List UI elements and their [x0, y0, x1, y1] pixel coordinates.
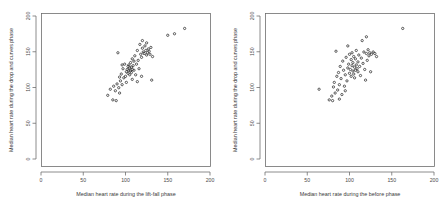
data-point	[364, 79, 366, 81]
data-point	[361, 39, 363, 41]
data-point	[125, 81, 127, 83]
data-point	[167, 34, 169, 36]
data-point	[120, 73, 122, 75]
data-point	[173, 33, 175, 35]
y-axis-right: 050100150200	[249, 12, 260, 161]
y-tick-label: 0	[25, 157, 31, 160]
data-point	[328, 99, 330, 101]
x-tick-label: 100	[121, 177, 130, 183]
y-tick-label: 200	[249, 12, 255, 21]
y-axis-ticks: 050100150200	[249, 12, 260, 161]
data-point	[151, 55, 153, 57]
y-tick-label: 100	[25, 83, 31, 92]
y-tick-label: 100	[249, 83, 255, 92]
data-point	[136, 80, 138, 82]
data-point	[138, 68, 140, 70]
data-point	[143, 52, 145, 54]
data-point	[356, 68, 358, 70]
data-point	[353, 66, 355, 68]
data-point	[351, 65, 353, 67]
data-point	[133, 60, 135, 62]
data-point	[338, 98, 340, 100]
x-axis-right: 050100150200	[264, 172, 439, 183]
data-point	[345, 56, 347, 58]
data-point	[140, 75, 142, 77]
data-point	[353, 55, 355, 57]
x-axis-title: Median heart rate during the lift-fall p…	[76, 191, 176, 197]
x-tick-label: 100	[345, 177, 354, 183]
data-point	[353, 73, 355, 75]
data-point	[354, 58, 356, 60]
data-point	[334, 92, 336, 94]
data-point	[129, 74, 131, 76]
data-point	[368, 55, 370, 57]
data-point-group	[318, 27, 404, 102]
data-point	[340, 77, 342, 79]
plot-frame	[42, 14, 211, 167]
x-tick-label: 0	[264, 177, 267, 183]
two-panel-scatter-figure: 050100150200 050100150200 Median heart r…	[0, 0, 447, 211]
data-point	[132, 65, 134, 67]
data-point	[140, 53, 142, 55]
data-point	[113, 85, 115, 87]
data-point	[135, 63, 137, 65]
data-point	[347, 45, 349, 47]
data-point	[145, 42, 147, 44]
data-point	[375, 55, 377, 57]
data-point	[343, 85, 345, 87]
scatter-plot-left: 050100150200 050100150200 Median heart r…	[0, 0, 223, 211]
data-point	[346, 80, 348, 82]
data-point	[402, 27, 404, 29]
data-point	[184, 27, 186, 29]
data-point	[374, 52, 376, 54]
x-axis-left: 050100150200	[40, 172, 215, 183]
data-point	[365, 36, 367, 38]
data-point	[107, 94, 109, 96]
x-tick-label: 150	[163, 177, 172, 183]
data-point	[128, 64, 130, 66]
data-point	[140, 56, 142, 58]
data-point	[112, 99, 114, 101]
data-point	[363, 51, 365, 53]
scatter-panel-left: 050100150200 050100150200 Median heart r…	[0, 0, 223, 211]
data-point	[109, 88, 111, 90]
y-axis-left: 050100150200	[25, 12, 36, 161]
data-point	[369, 71, 371, 73]
data-point	[355, 64, 357, 66]
data-point	[332, 86, 334, 88]
data-point	[358, 65, 360, 67]
data-point	[358, 54, 360, 56]
y-tick-label: 200	[25, 12, 31, 21]
data-point	[116, 83, 118, 85]
y-tick-label: 50	[25, 120, 31, 126]
data-point	[137, 59, 139, 61]
data-point	[119, 80, 121, 82]
y-axis-ticks: 050100150200	[25, 12, 36, 161]
data-point	[359, 74, 361, 76]
data-point	[148, 50, 150, 52]
x-axis-title: Median heart rate during the before phas…	[300, 191, 401, 197]
data-point	[124, 63, 126, 65]
data-point	[136, 49, 138, 51]
data-point	[141, 47, 143, 49]
data-point	[349, 68, 351, 70]
y-tick-label: 150	[249, 47, 255, 56]
data-point	[357, 71, 359, 73]
data-point	[350, 75, 352, 77]
x-tick-label: 50	[304, 177, 310, 183]
y-tick-label: 150	[25, 47, 31, 56]
data-point	[367, 49, 369, 51]
data-point	[131, 78, 133, 80]
data-point	[141, 39, 143, 41]
x-tick-label: 200	[206, 177, 215, 183]
y-axis-title: Median heart rate during the drop and cu…	[232, 28, 238, 152]
y-tick-label: 0	[249, 157, 255, 160]
y-tick-label: 50	[249, 120, 255, 126]
data-point	[121, 64, 123, 66]
data-point	[333, 81, 335, 83]
data-point	[144, 45, 146, 47]
data-point	[337, 71, 339, 73]
data-point	[129, 61, 131, 63]
data-point	[364, 68, 366, 70]
data-point	[331, 95, 333, 97]
